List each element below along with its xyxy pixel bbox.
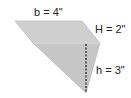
triangle (33, 43, 100, 93)
parallelogram (15, 21, 100, 43)
base-label: b = 4" (34, 6, 63, 18)
triangle-height-label: h = 3" (96, 64, 125, 76)
shape-diagram: b = 4" H = 2" h = 3" (0, 0, 131, 98)
parallelogram-height-label: H = 2" (95, 23, 126, 35)
